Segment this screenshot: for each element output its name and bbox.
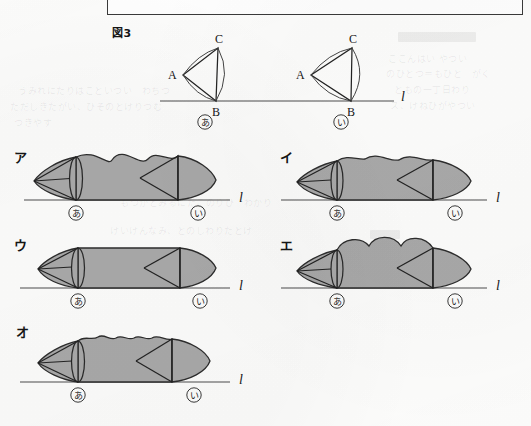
figure-3-label: 図3 [112, 24, 132, 40]
option-i-body [337, 156, 433, 200]
option-a-start-mark: あ [69, 206, 83, 220]
option-a-end-mark: い [191, 206, 205, 220]
figure-3-i-vertex-A: A [296, 68, 305, 82]
option-i-end-mark-text: い [451, 209, 460, 219]
figure-3-a-mark-text: あ [201, 118, 210, 128]
option-o-svg: l あ い [0, 315, 265, 410]
option-u-end-mark-text: い [196, 297, 205, 307]
figure-3-i-vertex-B: B [347, 105, 355, 119]
figure-3-svg: l A B C あ A B C い [0, 0, 531, 140]
option-a-svg: l あ い [0, 140, 265, 228]
option-panel-e[interactable]: l あ い [265, 228, 531, 316]
option-o-end-mark: い [187, 388, 201, 402]
figure-3-i-mark-text: い [337, 118, 346, 128]
figure-3-a-vertex-B: B [212, 105, 220, 119]
option-u-line-label: l [239, 278, 243, 293]
option-label-o: オ [16, 322, 29, 341]
option-panel-o[interactable]: l あ い [0, 315, 265, 410]
option-o-right-cone [172, 339, 210, 382]
option-i-end-mark: い [448, 206, 462, 220]
option-e-start-mark-text: あ [333, 297, 342, 307]
option-i-start-mark: あ [330, 206, 344, 220]
option-u-end-mark: い [193, 294, 207, 308]
option-a-body [76, 154, 178, 200]
option-o-start-mark: あ [71, 388, 85, 402]
option-label-u: ウ [14, 235, 27, 254]
option-a-start-mark-text: あ [72, 209, 81, 219]
option-panel-i[interactable]: l あ い [265, 140, 531, 228]
option-o-line-label: l [239, 372, 243, 387]
option-e-right-cone [433, 248, 471, 288]
option-panel-a[interactable]: l あ い [0, 140, 265, 228]
option-e-svg: l あ い [265, 228, 531, 316]
option-e-start-mark: あ [330, 294, 344, 308]
option-u-svg: l あ い [0, 228, 265, 316]
figure-3-a-vertex-C: C [215, 32, 223, 46]
option-a-line-label: l [239, 190, 243, 205]
figure-3-shape-a: A B C あ [168, 32, 225, 129]
option-a-right-cone [178, 156, 216, 200]
option-label-a: ア [14, 147, 27, 166]
option-u-start-mark: あ [71, 294, 85, 308]
option-e-end-mark: い [448, 294, 462, 308]
figure-3-shape-i: A B C い [296, 32, 360, 129]
option-i-start-mark-text: あ [333, 209, 342, 219]
option-a-end-mark-text: い [194, 209, 203, 219]
option-u-right-cone [180, 248, 216, 288]
option-o-body [78, 336, 172, 382]
option-label-i: イ [280, 147, 293, 166]
figure-3-i-vertex-C: C [349, 32, 357, 46]
option-o-start-mark-text: あ [74, 391, 83, 401]
figure-3-a-mark: あ [198, 115, 212, 129]
option-u-body [78, 248, 180, 288]
option-panel-u[interactable]: l あ い [0, 228, 265, 316]
option-label-e: エ [280, 235, 293, 254]
option-i-line-label: l [496, 190, 500, 205]
figure-3-line-label: l [401, 89, 405, 104]
option-i-right-cone [433, 160, 471, 200]
option-e-line-label: l [496, 278, 500, 293]
option-o-end-mark-text: い [190, 391, 199, 401]
option-i-svg: l あ い [265, 140, 531, 228]
figure-3-a-vertex-A: A [168, 68, 177, 82]
option-u-start-mark-text: あ [74, 297, 83, 307]
figure-3-panel: l A B C あ A B C い [0, 0, 531, 140]
option-e-end-mark-text: い [451, 297, 460, 307]
figure-3-i-mark: い [334, 115, 348, 129]
